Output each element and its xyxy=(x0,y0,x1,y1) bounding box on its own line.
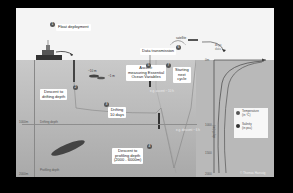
step-badge-1: 1 xyxy=(50,22,55,27)
chart-tick-0: 0m xyxy=(205,58,209,62)
argo-data-label: Argo data xyxy=(215,44,221,51)
salinity-legend-label: Salinity (in psu) xyxy=(242,123,252,130)
satellite-label: satellite xyxy=(176,36,186,40)
step-badge-4: 4 xyxy=(147,144,152,149)
profile-depth-value: 2000m xyxy=(19,172,28,176)
step-drifting-label: Drifting 10 days xyxy=(108,107,126,118)
credit-text: © Thomas Haessig xyxy=(240,171,266,175)
dolphin-icon xyxy=(89,74,99,77)
step-next-cycle-label: Starting next cycle xyxy=(173,67,191,83)
float-drifting-icon xyxy=(158,113,160,129)
drifting-depth-label: Drifting depth xyxy=(40,120,58,124)
descent-time-note: e.g. descent ~ 6 h xyxy=(176,128,200,132)
step-descent-drifting-label: Descent to drifting depth xyxy=(40,89,67,100)
step-badge-5: 5 xyxy=(146,63,151,68)
step-badge-2: 2 xyxy=(73,85,78,90)
ship-icon xyxy=(36,40,62,60)
step-badge-7: 7 xyxy=(166,63,171,68)
fish-depth-note-2: ~1 m xyxy=(108,74,115,78)
chart-tick-1500: 1500 xyxy=(205,151,212,155)
drifting-depth-line xyxy=(22,124,197,125)
chart-legend: Temperature (in °C) Salinity (in psu) xyxy=(234,108,268,138)
step-data-transmission-label: Data transmission xyxy=(140,48,176,55)
temperature-legend-label: Temperature (in °C) xyxy=(242,110,259,117)
satellite-icon xyxy=(188,39,198,41)
depth-axis-line xyxy=(34,60,35,177)
float-descending-icon xyxy=(73,60,75,82)
step-badge-3: 3 xyxy=(104,102,109,107)
chart-axis-label: depth (m) xyxy=(212,125,216,138)
chart-tick-2000: 2000 xyxy=(205,172,212,176)
salinity-legend-dot xyxy=(236,124,240,128)
temperature-legend-dot xyxy=(236,111,240,115)
step-float-deployment-label: Float deployment xyxy=(56,24,91,31)
diagram-canvas: 1000m Drifting depth 2000m Profiling dep… xyxy=(16,8,274,177)
chart-tick-1000: 1000 xyxy=(205,123,212,127)
fish-depth-note-1: ~10 m xyxy=(88,69,96,73)
drift-depth-value: 1000m xyxy=(19,120,28,124)
step-badge-6: 6 xyxy=(176,45,181,50)
dolphin-icon xyxy=(97,77,105,80)
step-descent-profiling-label: Descent to profiling depth (2000 - 6000m… xyxy=(112,148,143,164)
profiling-depth-label: Profiling depth xyxy=(40,168,59,172)
ascent-time-note: e.g. ascent ~ 10 h xyxy=(150,89,174,93)
whale-icon xyxy=(50,138,86,159)
